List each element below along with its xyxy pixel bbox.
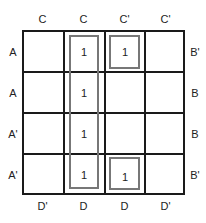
bottom-label: D [63, 200, 104, 212]
left-label: A [6, 87, 20, 99]
right-label: B' [187, 46, 203, 58]
grid-line [24, 112, 183, 114]
bottom-label: D [104, 200, 145, 212]
top-label: C' [145, 13, 186, 25]
cell-value: 1 [64, 169, 104, 181]
bottom-label: D' [22, 200, 63, 212]
left-label: A' [6, 128, 20, 140]
grouping-loop-column-2 [69, 35, 99, 189]
cell-value: 1 [64, 128, 104, 140]
left-label: A [6, 46, 20, 58]
right-label: B [187, 128, 203, 140]
right-label: B [187, 87, 203, 99]
top-label: C [22, 13, 63, 25]
cell-value: 1 [64, 87, 104, 99]
cell-value: 1 [64, 46, 104, 58]
grid-line [24, 71, 183, 73]
right-label: B' [187, 169, 203, 181]
bottom-label: D' [145, 200, 186, 212]
kmap-grid: 1 1 1 1 1 1 [22, 30, 185, 195]
cell-value: 1 [105, 171, 145, 183]
left-label: A' [6, 169, 20, 181]
top-label: C [63, 13, 104, 25]
cell-value: 1 [105, 46, 145, 58]
top-label: C' [104, 13, 145, 25]
grid-line [24, 153, 183, 155]
